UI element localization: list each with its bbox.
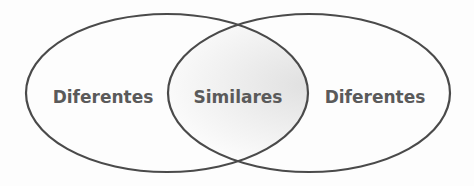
venn-diagram: Diferentes Similares Diferentes [0, 0, 474, 186]
right-label: Diferentes [325, 87, 426, 107]
left-label: Diferentes [53, 87, 154, 107]
intersection-label: Similares [194, 87, 283, 107]
